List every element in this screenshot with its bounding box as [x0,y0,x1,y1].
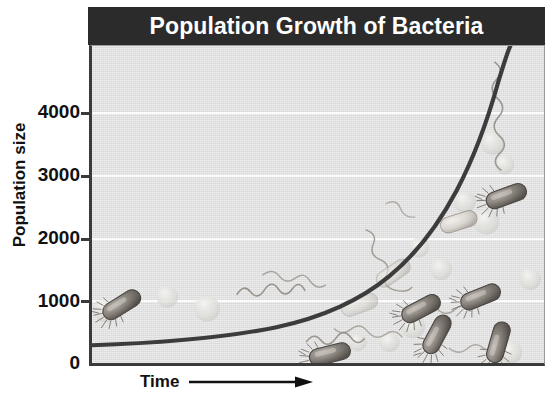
flagellum [419,304,471,313]
cocci-cell [349,333,367,351]
y-tick-mark-2000 [81,238,89,241]
chart-title: Population Growth of Bacteria [150,15,484,38]
arrow-right-icon [189,375,313,389]
chart-title-banner: Population Growth of Bacteria [88,7,545,45]
cocci-cell [379,332,399,352]
gridline-2000 [92,238,544,240]
bacterium [474,318,519,363]
cocci-cell [498,340,522,363]
bacterium [373,256,413,290]
cocci-cell [454,191,476,213]
y-tick-label-3000: 3000 [32,164,80,186]
bacteria-illustration-layer [92,46,544,363]
flagellum [334,326,402,337]
growth-curve [92,46,544,363]
y-axis-title: Population size [10,105,30,265]
cocci-cell [401,315,425,339]
plot-background-texture [92,46,544,363]
cocci-cell [474,209,500,235]
bacterium [408,309,461,363]
bacterium [471,174,531,222]
bacterium [295,334,354,363]
y-tick-label-0: 0 [32,352,80,374]
gridline-1000 [92,300,544,302]
cocci-cell [94,299,118,323]
cocci-cell [481,131,505,155]
flagellum [385,202,415,217]
bacterium [438,208,479,235]
plot-area [89,45,545,366]
cocci-cell [519,268,541,290]
x-axis-title: Time [140,372,179,392]
flagellum [306,333,364,345]
bacterium [445,274,506,323]
flagellum [237,284,305,296]
bacterium [339,291,380,319]
y-tick-mark-1000 [81,300,89,303]
cocci-cell [494,155,514,175]
bacterium [386,285,447,337]
bacterium [92,280,148,335]
y-tick-label-2000: 2000 [32,227,80,249]
y-tick-label-4000: 4000 [32,101,80,123]
y-tick-mark-3000 [81,175,89,178]
cocci-cell [156,286,178,308]
flagellum [262,271,325,287]
y-tick-label-1000: 1000 [32,290,80,312]
gridline-4000 [92,112,544,114]
gridline-3000 [92,175,544,177]
cocci-cell [430,258,452,280]
cocci-cell [409,238,429,258]
flagellum [449,345,486,352]
flagellum [492,62,504,171]
bacteria-growth-figure: Population Growth of Bacteria Population… [0,0,552,399]
y-tick-mark-4000 [81,112,89,115]
x-axis-label-group: Time [140,372,313,392]
